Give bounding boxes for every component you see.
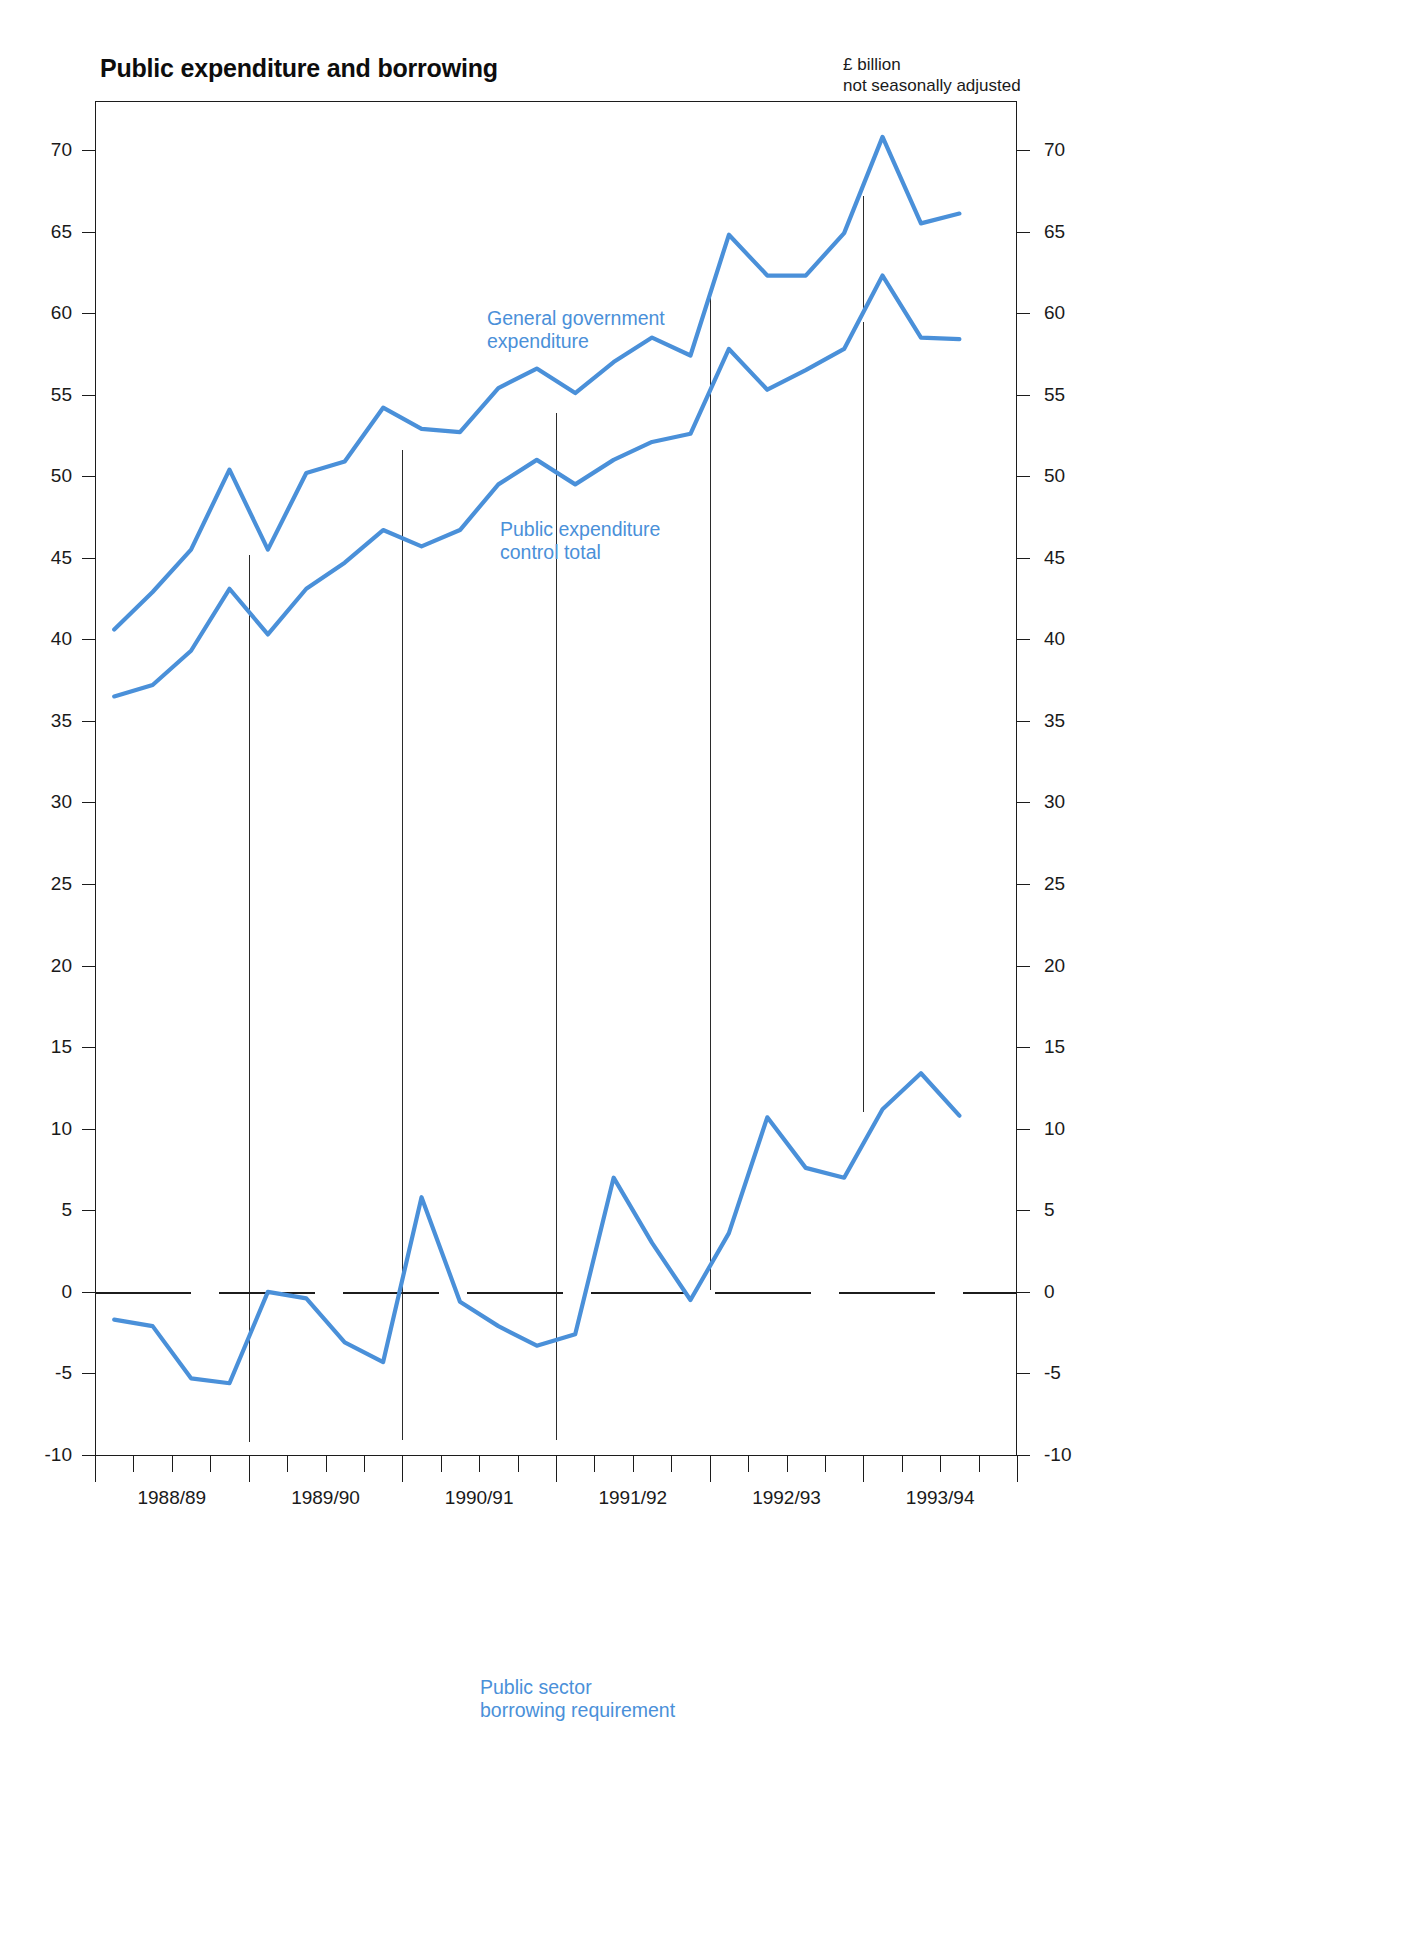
x-tick-label: 1990/91 [445,1487,514,1509]
y-tick-label-right: 5 [1044,1200,1055,1219]
y-tick-right [1017,1047,1030,1048]
chart-root: Public expenditure and borrowing £ billi… [0,0,1402,1959]
x-tick-minor [210,1456,211,1472]
y-tick-left [82,639,95,640]
x-tick-minor [441,1456,442,1472]
y-tick-left [82,1129,95,1130]
y-tick-label-left: 70 [0,140,72,159]
x-tick-minor [133,1456,134,1472]
y-tick-right [1017,558,1030,559]
y-tick-label-right: 35 [1044,711,1065,730]
y-tick-left [82,802,95,803]
y-tick-right [1017,476,1030,477]
y-tick-label-left: -5 [0,1363,72,1382]
y-tick-left [82,1047,95,1048]
y-tick-label-left: 55 [0,385,72,404]
series-line [114,1073,959,1383]
x-tick-major [710,1456,711,1482]
annotation-pect-line2: control total [500,541,660,564]
y-tick-left [82,232,95,233]
y-tick-right [1017,721,1030,722]
y-tick-right [1017,1373,1030,1374]
y-tick-right [1017,1210,1030,1211]
x-tick-major [863,1456,864,1482]
y-tick-right [1017,232,1030,233]
x-axis [95,1455,1017,1456]
unit-note: £ billion not seasonally adjusted [843,54,1021,96]
y-tick-label-right: 55 [1044,385,1065,404]
y-tick-left [82,150,95,151]
y-tick-label-left: 20 [0,956,72,975]
unit-currency: £ billion [843,54,1021,75]
y-tick-label-left: 30 [0,792,72,811]
annotation-public-sector-borrowing-requirement: Public sector borrowing requirement [480,1676,675,1722]
y-tick-label-left: 25 [0,874,72,893]
y-tick-right [1017,639,1030,640]
y-tick-label-left: 5 [0,1200,72,1219]
y-tick-label-right: -10 [1044,1445,1071,1464]
annotation-psbr-line2: borrowing requirement [480,1699,675,1722]
y-tick-left [82,884,95,885]
y-tick-label-left: 10 [0,1119,72,1138]
y-tick-label-right: 20 [1044,956,1065,975]
x-tick-minor [287,1456,288,1472]
y-tick-left [82,1373,95,1374]
y-tick-label-left: 35 [0,711,72,730]
x-tick-label: 1991/92 [598,1487,667,1509]
y-tick-right [1017,884,1030,885]
y-tick-label-right: 50 [1044,466,1065,485]
y-tick-left [82,313,95,314]
annotation-psbr-line1: Public sector [480,1676,675,1699]
x-tick-major [402,1456,403,1482]
y-tick-label-right: 25 [1044,874,1065,893]
y-tick-label-left: 60 [0,303,72,322]
y-tick-label-right: 30 [1044,792,1065,811]
annotation-ggexp-line2: expenditure [487,330,665,353]
y-tick-label-right: -5 [1044,1363,1061,1382]
x-tick-minor [748,1456,749,1472]
y-tick-right [1017,395,1030,396]
y-tick-label-right: 70 [1044,140,1065,159]
y-tick-left [82,558,95,559]
y-tick-right [1017,150,1030,151]
y-tick-label-left: 0 [0,1282,72,1301]
y-tick-label-left: 45 [0,548,72,567]
x-tick-major [556,1456,557,1482]
y-tick-right [1017,1129,1030,1130]
y-tick-label-right: 65 [1044,222,1065,241]
y-tick-left [82,1455,95,1456]
x-tick-minor [940,1456,941,1472]
y-tick-label-left: 15 [0,1037,72,1056]
x-tick-label: 1993/94 [906,1487,975,1509]
series-lines [95,101,1017,1455]
x-tick-minor [518,1456,519,1472]
annotation-ggexp-line1: General government [487,307,665,330]
y-tick-label-left: 50 [0,466,72,485]
y-tick-right [1017,313,1030,314]
y-tick-left [82,395,95,396]
y-tick-label-right: 45 [1044,548,1065,567]
x-tick-minor [979,1456,980,1472]
y-tick-left [82,966,95,967]
page-title: Public expenditure and borrowing [100,54,498,83]
x-tick-minor [364,1456,365,1472]
y-tick-label-left: 40 [0,629,72,648]
x-tick-label: 1992/93 [752,1487,821,1509]
y-tick-left [82,721,95,722]
y-tick-right [1017,1455,1030,1456]
x-tick-minor [787,1456,788,1472]
x-tick-major [249,1456,250,1482]
y-tick-right [1017,966,1030,967]
x-tick-label: 1988/89 [137,1487,206,1509]
y-tick-left [82,1210,95,1211]
x-tick-minor [825,1456,826,1472]
x-tick-minor [671,1456,672,1472]
x-tick-minor [633,1456,634,1472]
y-tick-right [1017,1292,1030,1293]
x-tick-minor [172,1456,173,1472]
x-tick-minor [479,1456,480,1472]
y-tick-label-right: 40 [1044,629,1065,648]
annotation-pect-line1: Public expenditure [500,518,660,541]
y-tick-right [1017,802,1030,803]
y-tick-left [82,1292,95,1293]
